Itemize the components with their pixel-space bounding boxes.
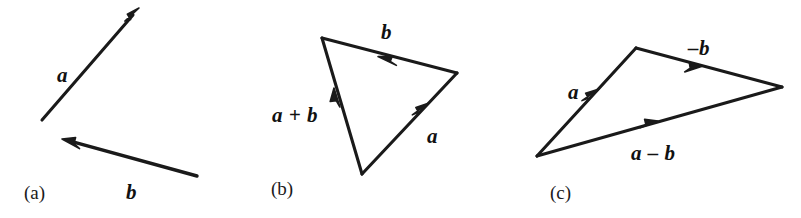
panel-b-vector-a-plus-b bbox=[322, 38, 362, 174]
panel-caption-a: (a) bbox=[24, 183, 45, 202]
panel-b-label-b: b bbox=[381, 22, 392, 43]
panel-b-graphics bbox=[322, 38, 457, 174]
panel-b-vector-a bbox=[362, 73, 457, 174]
vector-figure: a b b a a + b a –b a – b (a) (b) (c) bbox=[0, 0, 801, 218]
panel-c-vector-a bbox=[537, 48, 636, 156]
panel-c-label-minus-b: –b bbox=[688, 38, 710, 59]
panel-caption-c: (c) bbox=[550, 183, 571, 202]
panel-c-label-a-minus-b: a – b bbox=[631, 143, 676, 164]
panel-a-graphics bbox=[42, 8, 197, 176]
panel-a-label-a: a bbox=[57, 65, 68, 86]
panel-b-label-a-plus-b: a + b bbox=[272, 105, 318, 126]
panel-b-label-a: a bbox=[427, 126, 438, 147]
panel-a-vector-b bbox=[62, 138, 197, 176]
panel-c-label-a: a bbox=[568, 82, 579, 103]
panel-caption-b: (b) bbox=[271, 179, 293, 198]
panel-a-label-b: b bbox=[126, 182, 137, 203]
vector-diagram-canvas bbox=[0, 0, 801, 218]
